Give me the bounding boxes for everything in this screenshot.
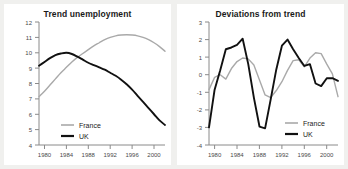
- y-tick-label: 10: [25, 50, 32, 56]
- y-tick-label: -3: [197, 125, 203, 131]
- x-tick-label: 2000: [147, 152, 161, 158]
- x-tick-label: 1984: [60, 152, 74, 158]
- y-tick-label: 12: [25, 20, 32, 26]
- chart-panel-trend-unemployment: Trend unemployment 12 11 10 9: [4, 4, 171, 165]
- y-ticks-left: [35, 22, 39, 145]
- figure-container: Trend unemployment 12 11 10 9: [0, 0, 348, 169]
- x-tick-label: 1996: [298, 152, 312, 158]
- x-tick-label: 1980: [38, 152, 52, 158]
- y-tick-label: -2: [197, 107, 203, 113]
- legend-label-uk: UK: [303, 131, 313, 138]
- y-tick-label: 9: [29, 66, 33, 72]
- x-tick-label: 1988: [82, 152, 96, 158]
- x-tick-label: 1980: [208, 152, 222, 158]
- series-line-france-right: [209, 53, 338, 98]
- x-tick-label: 1992: [104, 152, 118, 158]
- y-tick-label: 1: [199, 55, 203, 61]
- legend-label-france: France: [79, 122, 101, 129]
- x-ticks-right: [215, 145, 327, 149]
- y-tick-labels-left: 12 11 10 9 8 7 6 5 4: [25, 20, 32, 149]
- x-tick-labels-left: 1980 1984 1988 1992 1996 2000: [38, 152, 162, 158]
- y-tick-label: 0: [199, 72, 203, 78]
- y-tick-label: 6: [29, 112, 33, 118]
- x-tick-label: 1996: [125, 152, 139, 158]
- y-tick-label: 2: [199, 37, 203, 43]
- plot-area-left: 12 11 10 9 8 7 6 5 4 1980 1984: [4, 4, 171, 165]
- y-tick-label: -1: [197, 90, 203, 96]
- x-tick-labels-right: 1980 1984 1988 1992 1996 2000: [208, 152, 334, 158]
- y-tick-label: 3: [199, 20, 203, 26]
- y-tick-label: 4: [29, 143, 33, 149]
- series-line-uk-right: [209, 39, 338, 129]
- x-tick-label: 2000: [320, 152, 334, 158]
- x-tick-label: 1988: [253, 152, 267, 158]
- y-tick-label: 5: [29, 127, 33, 133]
- y-tick-label: 7: [29, 96, 33, 102]
- x-ticks-left: [45, 145, 155, 149]
- chart-panel-deviations-from-trend: Deviations from trend 3 2 1 0 -1: [177, 4, 344, 165]
- x-tick-label: 1984: [230, 152, 244, 158]
- series-line-uk-left: [39, 53, 165, 125]
- y-tick-label: -4: [197, 143, 203, 149]
- plot-area-right: 3 2 1 0 -1 -2 -3 -4 1980 1984: [177, 4, 344, 165]
- x-tick-label: 1992: [275, 152, 289, 158]
- y-tick-labels-right: 3 2 1 0 -1 -2 -3 -4: [197, 20, 203, 149]
- series-line-france-left: [39, 35, 165, 97]
- legend-left: France UK: [61, 122, 101, 140]
- legend-right: France UK: [285, 120, 325, 138]
- legend-label-france: France: [303, 120, 325, 127]
- y-tick-label: 11: [26, 35, 33, 41]
- legend-label-uk: UK: [79, 133, 89, 140]
- y-tick-label: 8: [29, 81, 33, 87]
